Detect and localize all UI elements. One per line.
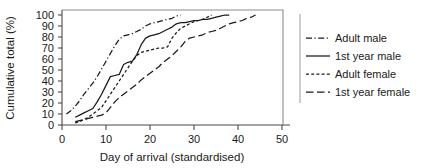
x-tick-label: 20 bbox=[144, 133, 156, 145]
series-line-1st-year-male bbox=[75, 15, 229, 117]
legend-item-label: Adult male bbox=[335, 32, 387, 44]
x-tick-label: 50 bbox=[276, 133, 288, 145]
x-tick-label: 40 bbox=[232, 133, 244, 145]
legend-item-adult-male[interactable]: Adult male bbox=[306, 32, 387, 44]
series-line-adult-female bbox=[75, 15, 211, 123]
legend-item-label: Adult female bbox=[335, 68, 396, 80]
x-tick-label: 10 bbox=[100, 133, 112, 145]
y-tick-label: 0 bbox=[48, 119, 54, 131]
plot-frame bbox=[62, 10, 290, 125]
legend-item-adult-female[interactable]: Adult female bbox=[306, 68, 396, 80]
y-axis-tick-labels: 100 90 80 70 60 50 40 30 20 10 0 bbox=[36, 9, 54, 131]
y-axis-title: Cumulative total (%) bbox=[4, 16, 16, 120]
x-axis-tick-labels: 0 10 20 30 40 50 bbox=[59, 133, 288, 145]
chart-svg: 100 90 80 70 60 50 40 30 20 10 0 0 10 20… bbox=[0, 0, 423, 168]
chart-figure: 100 90 80 70 60 50 40 30 20 10 0 0 10 20… bbox=[0, 0, 423, 168]
x-tick-label: 30 bbox=[188, 133, 200, 145]
x-tick-label: 0 bbox=[59, 133, 65, 145]
legend: Adult male 1st year male Adult female 1s… bbox=[300, 14, 410, 103]
legend-item-label: 1st year male bbox=[335, 50, 401, 62]
y-axis-ticks bbox=[58, 15, 62, 125]
data-curves bbox=[66, 15, 255, 123]
legend-item-1st-year-female[interactable]: 1st year female bbox=[306, 86, 410, 98]
legend-item-label: 1st year female bbox=[335, 86, 410, 98]
x-axis-ticks bbox=[62, 125, 282, 130]
legend-item-1st-year-male[interactable]: 1st year male bbox=[306, 50, 401, 62]
x-axis-title: Day of arrival (standardised) bbox=[100, 151, 245, 163]
